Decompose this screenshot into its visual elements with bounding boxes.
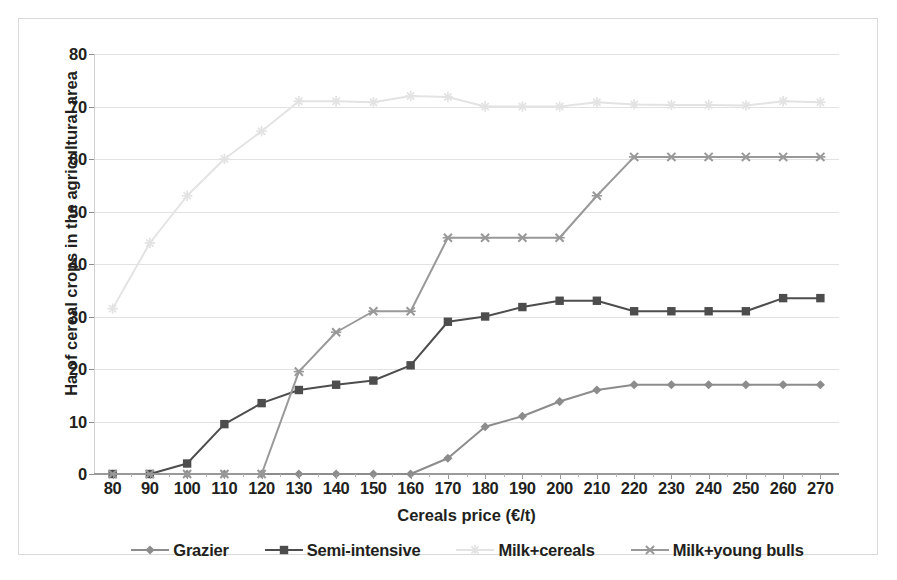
- data-point-diamond: [555, 397, 564, 406]
- y-tick-mark: [89, 54, 94, 55]
- y-tick-mark: [89, 422, 94, 423]
- data-point-square: [518, 303, 526, 311]
- x-tick-labels: 8090100110120130140150160170180190200210…: [94, 479, 839, 505]
- data-point-square: [444, 318, 452, 326]
- data-point-diamond: [779, 380, 788, 389]
- series-line: [113, 157, 821, 474]
- data-point-asterisk: [480, 101, 490, 111]
- series-milk-young-bulls: [107, 153, 825, 478]
- data-point-x: [778, 153, 788, 161]
- data-point-asterisk: [368, 97, 378, 107]
- x-tick-minor-mark: [802, 474, 803, 477]
- data-point-asterisk: [331, 96, 341, 106]
- x-tick-minor-mark: [616, 474, 617, 477]
- data-point-square: [704, 307, 712, 315]
- data-point-square: [257, 399, 265, 407]
- data-point-asterisk: [554, 101, 564, 111]
- data-point-diamond: [630, 380, 639, 389]
- data-point-x: [405, 307, 415, 315]
- data-point-square: [555, 297, 563, 305]
- data-point-asterisk: [145, 238, 155, 248]
- legend-label: Milk+cereals: [498, 541, 594, 560]
- legend-marker-x-icon: [629, 541, 671, 559]
- legend-marker-square-icon: [263, 541, 305, 559]
- x-tick-minor-mark: [243, 474, 244, 477]
- x-tick-minor-mark: [355, 474, 356, 477]
- y-tick-label: 0: [41, 465, 87, 484]
- data-point-square: [779, 294, 787, 302]
- data-point-x: [331, 328, 341, 336]
- data-point-diamond: [816, 380, 825, 389]
- y-tick-mark: [89, 107, 94, 108]
- data-point-asterisk: [703, 100, 713, 110]
- legend-item-milk-young-bulls[interactable]: Milk+young bulls: [629, 541, 804, 560]
- chart-legend: GrazierSemi-intensiveMilk+cerealsMilk+yo…: [94, 535, 839, 565]
- x-tick-minor-mark: [653, 474, 654, 477]
- data-point-x: [644, 546, 654, 554]
- data-point-diamond: [704, 380, 713, 389]
- chart-frame: 01020304050607080 8090100110120130140150…: [18, 18, 878, 555]
- x-tick-minor-mark: [280, 474, 281, 477]
- data-point-square: [220, 420, 228, 428]
- legend-label: Grazier: [173, 541, 228, 560]
- chart-figure: 01020304050607080 8090100110120130140150…: [0, 0, 897, 580]
- x-tick-minor-mark: [206, 474, 207, 477]
- x-tick-minor-mark: [690, 474, 691, 477]
- data-point-x: [629, 153, 639, 161]
- data-point-x: [741, 153, 751, 161]
- data-point-square: [481, 312, 489, 320]
- data-point-square: [742, 307, 750, 315]
- legend-item-milk-cereals[interactable]: Milk+cereals: [454, 541, 594, 560]
- data-point-asterisk: [107, 303, 117, 313]
- data-point-square: [406, 361, 414, 369]
- x-tick-minor-mark: [131, 474, 132, 477]
- x-tick-minor-mark: [318, 474, 319, 477]
- data-point-x: [368, 307, 378, 315]
- x-axis-title: Cereals price (€/t): [94, 506, 839, 525]
- data-point-x: [517, 234, 527, 242]
- data-point-asterisk: [741, 100, 751, 110]
- x-tick-minor-mark: [429, 474, 430, 477]
- data-point-x: [703, 153, 713, 161]
- data-point-x: [815, 153, 825, 161]
- data-point-diamond: [146, 545, 155, 554]
- data-point-asterisk: [219, 154, 229, 164]
- legend-marker-diamond-icon: [129, 541, 171, 559]
- series-line: [113, 298, 821, 474]
- y-tick-marks: [89, 54, 95, 474]
- series-line: [113, 96, 821, 309]
- data-point-asterisk: [629, 99, 639, 109]
- x-tick-minor-mark: [504, 474, 505, 477]
- x-tick-minor-mark: [467, 474, 468, 477]
- data-point-square: [630, 307, 638, 315]
- y-tick-mark: [89, 212, 94, 213]
- legend-item-semi-intensive[interactable]: Semi-intensive: [263, 541, 421, 560]
- series-semi-intensive: [108, 294, 824, 478]
- x-tick-minor-mark: [765, 474, 766, 477]
- x-tick-minor-mark: [392, 474, 393, 477]
- data-point-asterisk: [592, 97, 602, 107]
- data-point-diamond: [518, 412, 527, 421]
- y-tick-mark: [89, 369, 94, 370]
- data-point-diamond: [667, 380, 676, 389]
- data-point-square: [667, 307, 675, 315]
- data-point-x: [554, 234, 564, 242]
- y-axis-title: Ha of cereal crops in the agricultural a…: [62, 24, 81, 444]
- x-tick-minor-mark: [169, 474, 170, 477]
- data-point-asterisk: [815, 97, 825, 107]
- x-tick-label: 270: [790, 479, 850, 498]
- data-point-asterisk: [470, 545, 480, 555]
- legend-marker-asterisk-icon: [454, 541, 496, 559]
- x-tick-minor-mark: [578, 474, 579, 477]
- data-point-square: [332, 381, 340, 389]
- data-point-asterisk: [443, 92, 453, 102]
- data-point-x: [592, 192, 602, 200]
- series-milk-cereals: [107, 91, 825, 314]
- series-plot: [94, 54, 839, 474]
- data-point-square: [280, 546, 288, 554]
- legend-item-grazier[interactable]: Grazier: [129, 541, 228, 560]
- data-point-x: [443, 234, 453, 242]
- legend-label: Semi-intensive: [307, 541, 421, 560]
- data-point-square: [369, 376, 377, 384]
- data-point-diamond: [741, 380, 750, 389]
